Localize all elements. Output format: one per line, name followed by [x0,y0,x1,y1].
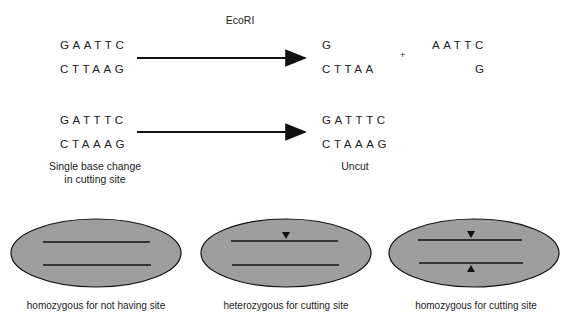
seq-top: GAATTC [60,39,127,51]
mut-seq-bottom: CTAAAG [60,138,128,150]
product1-bottom: CTTAA [322,63,377,75]
cell-caption-3: homozygous for cutting site [380,300,572,311]
product2-bottom: G [475,63,488,75]
cell-caption-1: homozygous for not having site [0,300,192,311]
cell-homozygous-site [389,219,559,287]
product1-top: G [322,39,335,51]
uncut-caption: Uncut [320,160,390,172]
seq-bottom: CTTAAG [60,63,127,75]
uncut-seq-bottom: CTAAAG [322,138,390,150]
cell-heterozygous [201,219,371,287]
enzyme-label: EcoRI [210,14,270,26]
cell-homozygous-no-site [11,219,181,287]
product2-top: AATTC [432,39,487,51]
uncut-seq-top: GATTTC [322,114,389,126]
plus-sign: + [400,50,405,60]
cell-caption-2: heterozygous for cutting site [190,300,382,311]
mutation-caption: Single base change in cutting site [40,160,150,186]
mut-seq-top: GATTTC [60,114,127,126]
